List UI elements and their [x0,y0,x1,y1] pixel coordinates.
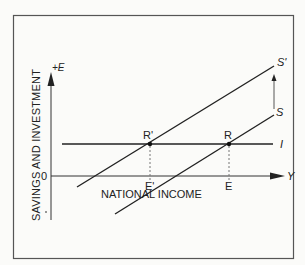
y-axis-arrow-icon [48,72,55,86]
y-axis-label: SAVINGS AND INVESTMENT [31,69,42,221]
curve-label-i: I [280,139,283,150]
x-axis-arrow-icon [270,173,285,180]
curve-label-s-prime: S' [277,57,286,68]
frame [14,16,294,259]
origin-label: 0 [41,171,47,182]
x-axis-symbol: Y [287,171,294,182]
point-r-prime [148,142,152,146]
y-axis-symbol: +E [52,62,65,73]
curve-label-s: S [276,107,283,118]
savings-line-shifted [77,66,274,187]
point-label-r: R [224,130,232,141]
income-label-e: E [225,181,232,192]
shift-arrow-head-icon [272,74,277,81]
point-label-r-prime: R' [143,130,153,141]
income-label-e-prime: E' [145,181,154,192]
point-r [227,142,231,146]
